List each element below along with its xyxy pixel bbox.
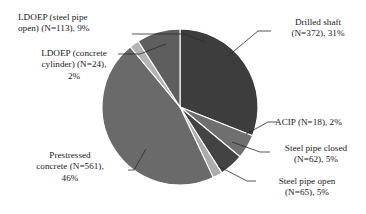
pie-label-ldoep-concrete-cylinder: LDOEP (concrete cylinder) (N=24), 2% (14, 48, 134, 82)
pie-label-steel-pipe-closed: Steel pipe closed (N=62), 5% (268, 143, 364, 166)
pie-label-acip: ACIP (N=18), 2% (275, 117, 363, 128)
pie-label-ldoep-steel-pipe-open: LDOEP (steel pipe open) (N=113), 9% (18, 12, 134, 35)
pie-chart-figure: LDOEP (steel pipe open) (N=113), 9% LDOE… (0, 0, 366, 214)
pie-label-drilled-shaft: Drilled shaft (N=372), 31% (273, 17, 363, 40)
pie-label-steel-pipe-open: Steel pipe open (N=65), 5% (253, 176, 361, 199)
pie-label-prestressed-concrete: Prestressed concrete (N=561), 46% (8, 150, 132, 184)
